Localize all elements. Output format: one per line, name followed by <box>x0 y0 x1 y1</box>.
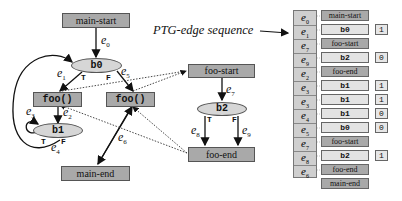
seq-entry-node: foo-end <box>321 164 369 175</box>
seq-entry-branch: b2 <box>321 150 369 161</box>
edge-label-e4: e4 <box>51 140 60 156</box>
seq-entry-node: foo-end <box>321 66 369 77</box>
seq-branch-value: 0 <box>375 52 388 63</box>
node-foo-start: foo-start <box>188 64 255 78</box>
node-foo-end: foo-end <box>188 147 255 162</box>
edge-label-e6: e6 <box>118 130 127 146</box>
seq-branch-value: 1 <box>375 24 388 35</box>
node-foo-call-2: foo() <box>106 92 155 107</box>
ptg-diagram: main-start b0 foo() foo() b1 main-end fo… <box>0 0 402 201</box>
seq-edge: e6 <box>294 165 316 179</box>
seq-entry-branch: b1 <box>321 80 369 91</box>
seq-edge: e4 <box>294 109 316 124</box>
seq-edge: e3 <box>294 81 316 96</box>
edge-label-e5: e5 <box>121 64 130 80</box>
edge-label-e2: e2 <box>63 105 72 121</box>
node-foo-call-1: foo() <box>33 92 82 107</box>
edge-label-e1: e1 <box>57 66 66 82</box>
seq-branch-value: 1 <box>375 80 388 91</box>
seq-branch-value: 0 <box>375 108 388 119</box>
edge-sequence-column: e0 e1 e7 e9 e2 e3 e3 e4 e5 e7 e8 e6 <box>293 10 317 178</box>
seq-entry-node: foo-start <box>321 136 369 147</box>
seq-edge: e8 <box>294 151 316 166</box>
b0-false-label: F <box>106 73 111 82</box>
sequence-title: PTG-edge sequence <box>153 23 253 38</box>
edge-label-e8: e8 <box>191 123 200 139</box>
edge-label-e3: e3 <box>26 104 35 120</box>
seq-entry-node: main-end <box>321 178 369 189</box>
edge-label-e9: e9 <box>242 123 251 139</box>
seq-edge: e7 <box>294 39 316 54</box>
seq-edge: e5 <box>294 123 316 138</box>
edge-label-e0: e0 <box>101 33 110 49</box>
seq-entry-branch: b1 <box>321 108 369 119</box>
seq-edge: e2 <box>294 67 316 82</box>
b2-true-label: T <box>207 115 212 124</box>
branch-node-b0: b0 <box>71 58 122 73</box>
edge-label-e7: e7 <box>226 82 235 98</box>
seq-entry-branch: b0 <box>321 122 369 133</box>
seq-entry-branch: b2 <box>321 52 369 63</box>
seq-entry-branch: b1 <box>321 94 369 105</box>
seq-entry-node: main-start <box>321 10 369 21</box>
b1-true-label: T <box>41 137 46 146</box>
b2-false-label: F <box>232 115 237 124</box>
node-main-end: main-end <box>61 166 130 181</box>
seq-edge: e1 <box>294 25 316 40</box>
seq-edge: e3 <box>294 95 316 110</box>
seq-branch-value: 0 <box>375 122 388 133</box>
branch-node-b1: b1 <box>33 123 83 138</box>
branch-node-b2: b2 <box>197 102 247 116</box>
seq-entry-node: foo-start <box>321 38 369 49</box>
seq-branch-value: 1 <box>375 94 388 105</box>
seq-edge: e9 <box>294 53 316 68</box>
b0-true-label: T <box>81 73 86 82</box>
seq-edge: e7 <box>294 137 316 152</box>
seq-branch-value: 1 <box>375 150 388 161</box>
node-main-start: main-start <box>62 13 130 28</box>
seq-entry-branch: b0 <box>321 24 369 35</box>
seq-edge: e0 <box>294 11 316 26</box>
b1-false-label: F <box>61 137 66 146</box>
